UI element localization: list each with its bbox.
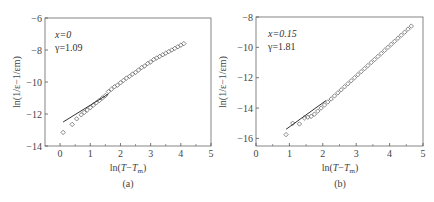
data-point [329, 97, 333, 101]
data-point [346, 82, 350, 86]
chart-panel-a: 012345 −14−12−10−8−6 x=0 γ=1.09 ln(T−Tm)… [11, 13, 214, 191]
data-point [332, 94, 336, 98]
data-point [376, 54, 380, 58]
panel-caption: (a) [122, 178, 133, 190]
annotation-gamma: γ=1.81 [267, 41, 296, 52]
y-tick-label: −14 [26, 141, 42, 152]
data-point [362, 66, 366, 70]
fit-line [286, 100, 326, 129]
data-point [359, 69, 363, 73]
fit-line [63, 94, 108, 122]
x-axis-label: ln(T−Tm) [110, 162, 147, 175]
data-point [336, 91, 340, 95]
y-tick-label: −8 [31, 45, 42, 56]
data-point [382, 48, 386, 52]
panel-caption: (b) [334, 178, 346, 190]
y-tick-label: −10 [26, 77, 42, 88]
data-point [389, 42, 393, 46]
data-point [339, 88, 343, 92]
x-tick-label: 2 [320, 148, 325, 159]
x-tick-label: 4 [178, 148, 183, 159]
y-tick-label: −12 [26, 109, 42, 120]
data-point [164, 51, 168, 55]
data-point [386, 45, 390, 49]
data-point [352, 76, 356, 80]
data-point [70, 122, 74, 126]
data-points [61, 41, 186, 134]
x-tick-label: 1 [287, 148, 292, 159]
annotation-x: x=0 [54, 29, 71, 40]
x-tick-label: 5 [209, 148, 214, 159]
data-point [392, 39, 396, 43]
data-point [182, 41, 186, 45]
data-point [379, 51, 383, 55]
annotation-gamma: γ=1.09 [54, 42, 83, 53]
y-tick-label: −10 [237, 42, 253, 53]
chart-panel-b: 012345 −16−14−12−10−8 x=0.15 γ=1.81 ln(T… [217, 12, 426, 191]
x-tick-label: 5 [421, 148, 426, 159]
y-tick-label: −14 [237, 103, 253, 114]
y-axis-label: ln(1/ε−1/εm) [217, 56, 229, 108]
data-point [179, 43, 183, 47]
x-tick-label: 2 [118, 148, 123, 159]
x-axis-ticks: 012345 [58, 143, 214, 159]
data-point [326, 100, 330, 104]
data-point [372, 57, 376, 61]
data-point [284, 132, 288, 136]
annotation-x: x=0.15 [267, 28, 297, 39]
data-points [284, 24, 414, 137]
data-point [297, 122, 301, 126]
x-axis-label: ln(T−Tm) [322, 162, 359, 175]
data-point [402, 30, 406, 34]
y-tick-label: −6 [31, 13, 42, 24]
data-point [342, 85, 346, 89]
x-axis-ticks: 012345 [254, 143, 426, 159]
data-point [316, 109, 320, 113]
data-point [176, 45, 180, 49]
x-tick-label: 4 [387, 148, 392, 159]
data-point [356, 72, 360, 76]
data-point [349, 79, 353, 83]
y-axis-label: ln(1/ε−1/εm) [11, 56, 23, 108]
data-point [61, 130, 65, 134]
figure: 012345 −14−12−10−8−6 x=0 γ=1.09 ln(T−Tm)… [0, 0, 434, 202]
data-point [167, 49, 171, 53]
data-point [406, 27, 410, 31]
y-tick-label: −16 [237, 133, 253, 144]
data-point [170, 48, 174, 52]
y-tick-label: −8 [242, 12, 253, 23]
data-point [369, 60, 373, 64]
data-point [319, 106, 323, 110]
y-tick-label: −12 [237, 72, 253, 83]
data-point [399, 33, 403, 37]
data-point [74, 117, 78, 121]
x-tick-label: 0 [58, 148, 63, 159]
data-point [157, 54, 161, 58]
x-tick-label: 1 [88, 148, 93, 159]
data-point [173, 46, 177, 50]
data-point [396, 36, 400, 40]
x-tick-label: 3 [148, 148, 153, 159]
x-tick-label: 3 [354, 148, 359, 159]
data-point [322, 103, 326, 107]
data-point [366, 63, 370, 67]
x-tick-label: 0 [254, 148, 259, 159]
data-point [409, 24, 413, 28]
data-point [161, 53, 165, 57]
data-point [154, 56, 158, 60]
